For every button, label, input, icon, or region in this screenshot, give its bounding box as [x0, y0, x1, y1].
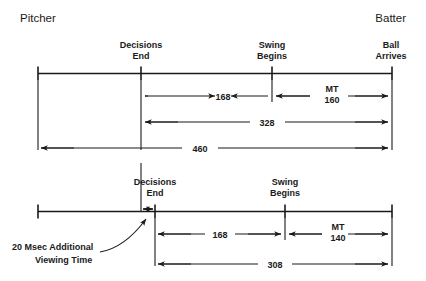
top-ball-arrives-line2: Arrives — [375, 51, 406, 61]
top-measure-460-value: 460 — [192, 144, 207, 154]
pitcher-title: Pitcher — [20, 12, 56, 24]
pitch-timing-diagram: Pitcher Batter Decisions End Swing Begin… — [0, 0, 426, 281]
top-swing-begins-line1: Swing — [259, 40, 286, 50]
top-ball-arrives-line1: Ball — [383, 40, 400, 50]
bottom-event-swing-begins-label: Swing Begins — [270, 177, 300, 198]
bottom-measure-mt-label: MT — [332, 222, 345, 232]
top-swing-begins-line2: Begins — [257, 51, 287, 61]
bottom-swing-begins-line2: Begins — [270, 188, 300, 198]
top-measure-mt-label: MT — [326, 84, 339, 94]
bottom-swing-begins-line1: Swing — [272, 177, 299, 187]
bottom-decisions-end-line2: End — [147, 188, 164, 198]
bottom-decisions-end-line1: Decisions — [134, 177, 177, 187]
top-decisions-end-line1: Decisions — [120, 40, 163, 50]
top-measure-mt-value: 160 — [324, 95, 339, 105]
top-measure-328-value: 328 — [259, 118, 274, 128]
twenty-msec-note-line1: 20 Msec Additional — [12, 242, 93, 252]
top-decisions-end-line2: End — [133, 51, 150, 61]
top-event-swing-begins-label: Swing Begins — [257, 40, 287, 61]
bottom-measure-mt-value: 140 — [330, 233, 345, 243]
top-measure-168-value: 168 — [215, 92, 230, 102]
twenty-msec-note-line2: Viewing Time — [35, 255, 92, 265]
bottom-measure-308-value: 308 — [267, 260, 282, 270]
bottom-measure-168-value: 168 — [212, 230, 227, 240]
batter-title: Batter — [375, 12, 406, 24]
